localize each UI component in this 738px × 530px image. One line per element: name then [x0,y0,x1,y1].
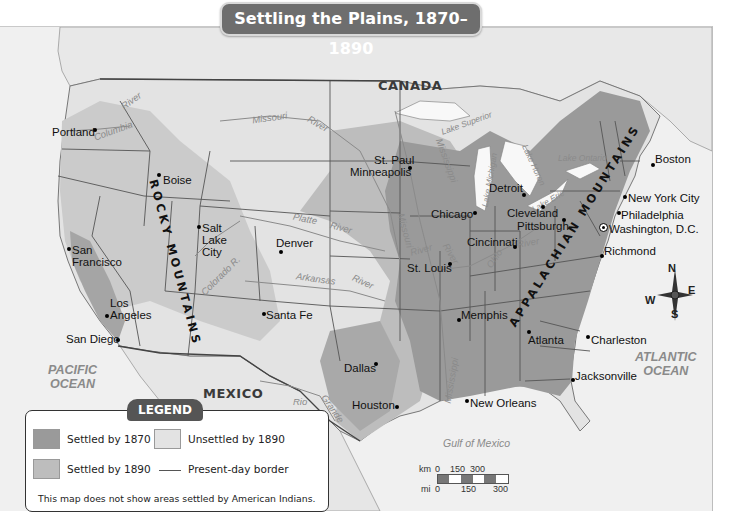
scale-km-tick: 0 [435,464,440,474]
legend-label-settled-1890: Settled by 1890 [67,463,151,475]
legend-note: This map does not show areas settled by … [38,493,315,504]
compass-south: S [671,308,678,320]
scale-km-tick: 150 [450,464,465,474]
scale-bar-graphic [437,474,509,484]
city-label: Atlanta [528,334,564,347]
ocean-line-2: OCEAN [635,364,697,378]
legend: LEGEND Settled by 1870 Unsettled by 1890… [25,410,329,512]
lake-label-ontario: Lake Ontario [558,153,607,163]
scale-mi-tick: 300 [493,484,508,494]
city-dot-icon [105,314,109,318]
city-label: Francisco [72,256,122,269]
legend-swatch-settled-1890 [33,459,60,479]
city-label: Denver [276,237,313,250]
city-label: Detroit [489,182,523,195]
scale-mi-label: mi [421,484,431,494]
capital-star-icon [599,223,608,232]
city-dot-icon [157,173,161,177]
city-dot-icon [67,247,71,251]
city-dot-icon [279,250,283,254]
city-label: City [202,246,222,259]
city-label: Charleston [591,334,647,347]
scale-km-tick: 300 [470,464,485,474]
scale-km-label: km [419,464,431,474]
city-label: Portland [52,126,95,139]
ocean-label-pacific: PACIFIC OCEAN [48,363,97,391]
city-label: St. Louis [407,262,452,275]
city-label: Santa Fe [266,309,313,322]
city-label: Chicago [431,208,473,221]
ocean-label-atlantic: ATLANTIC OCEAN [635,350,697,378]
legend-label-present-day-border: Present-day border [188,463,289,475]
city-label: Angeles [110,309,152,322]
scale-mi-tick: 150 [461,484,476,494]
country-label-canada: CANADA [378,78,442,93]
city-label: Memphis [461,309,508,322]
city-label: Cleveland [507,207,558,220]
country-label-mexico: MEXICO [203,386,263,401]
ocean-line-2: OCEAN [48,377,97,391]
compass-east: E [688,284,695,296]
legend-swatch-unsettled-1890 [154,429,181,449]
ocean-line-1: ATLANTIC [635,350,697,364]
city-label: Pittsburgh [517,220,569,233]
city-label: Houston [352,399,395,412]
city-dot-icon [465,399,469,403]
city-label: Minneapolis [350,166,411,179]
city-label: Boise [163,174,192,187]
city-dot-icon [395,405,399,409]
city-label: New York City [628,192,700,205]
city-label: Cincinnati [467,236,518,249]
city-dot-icon [586,335,590,339]
city-label: Boston [655,153,691,166]
legend-label-unsettled-1890: Unsettled by 1890 [188,433,285,445]
city-dot-icon [197,225,201,229]
scale-mi-tick: 0 [435,484,440,494]
map-title: Settling the Plains, 1870–1890 [220,2,482,36]
city-dot-icon [473,211,477,215]
legend-title: LEGEND [127,399,203,421]
city-label: San Diego [66,333,120,346]
city-label: Richmond [604,245,656,258]
legend-label-settled-1870: Settled by 1870 [67,433,151,445]
gulf-label: Gulf of Mexico [443,437,510,449]
city-label: Philadelphia [621,209,684,222]
ocean-line-1: PACIFIC [48,363,97,377]
legend-swatch-settled-1870 [33,429,60,449]
legend-border-line-icon [159,470,181,471]
compass-north: N [668,262,676,274]
compass-west: W [645,294,655,306]
city-label: Jacksonville [575,370,637,383]
city-label: Dallas [344,362,376,375]
city-label: Washington, D.C. [609,223,699,236]
river-label-rio: Rio [293,396,307,407]
city-label: New Orleans [470,397,536,410]
city-dot-icon [623,195,627,199]
